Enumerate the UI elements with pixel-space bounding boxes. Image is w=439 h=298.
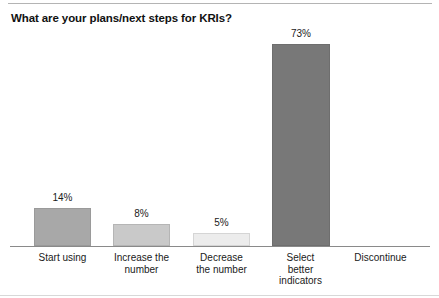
bar-value-increase-the-number: 8%	[113, 208, 170, 219]
x-label-line: number	[101, 264, 182, 276]
x-label-line: better	[260, 264, 341, 276]
bar-value-decrease-the-number: 5%	[193, 217, 250, 228]
bottom-divider-rule	[0, 295, 439, 296]
bar-select-better-indicators	[272, 44, 330, 246]
x-axis-baseline	[10, 246, 430, 247]
x-label-start-using: Start using	[22, 252, 103, 264]
bar-value-start-using: 14%	[34, 192, 91, 203]
x-label-line: indicators	[260, 275, 341, 287]
x-label-discontinue: Discontinue	[340, 252, 421, 264]
bar-start-using	[34, 208, 91, 246]
x-label-line: Discontinue	[340, 252, 421, 264]
x-label-line: Start using	[22, 252, 103, 264]
x-label-select-better-indicators: Select better indicators	[260, 252, 341, 287]
chart-figure: What are your plans/next steps for KRIs?…	[0, 0, 439, 298]
x-label-line: the number	[181, 264, 262, 276]
x-label-increase-the-number: Increase the number	[101, 252, 182, 275]
plot-area: 14% Start using 8% Increase the number 5…	[0, 0, 439, 298]
x-label-line: Increase the	[101, 252, 182, 264]
x-label-decrease-the-number: Decrease the number	[181, 252, 262, 275]
x-label-line: Decrease	[181, 252, 262, 264]
bar-value-select-better-indicators: 73%	[272, 28, 330, 39]
x-label-line: Select	[260, 252, 341, 264]
bar-increase-the-number	[113, 224, 170, 246]
bar-decrease-the-number	[193, 233, 250, 246]
